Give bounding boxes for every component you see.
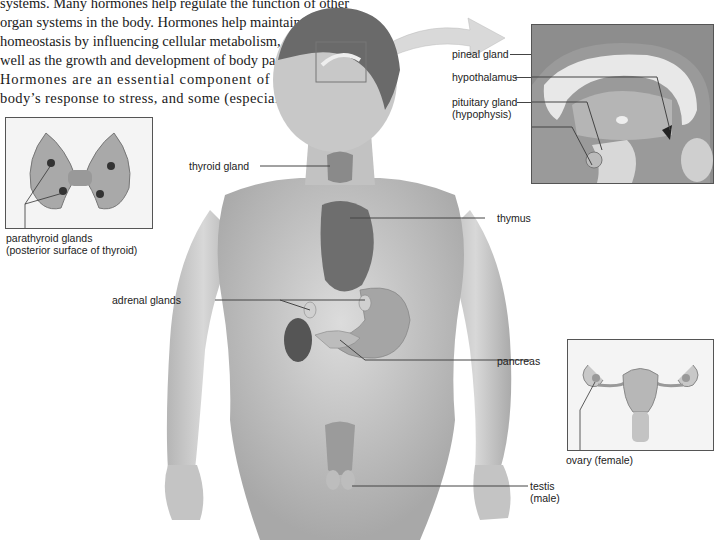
label-thyroid-gland: thyroid gland xyxy=(189,160,249,172)
label-hypothalamus: hypothalamus xyxy=(452,71,517,83)
leader-pineal xyxy=(510,54,531,55)
parathyroid-inset xyxy=(5,117,153,229)
label-ovary: ovary (female) xyxy=(566,454,633,466)
label-pituitary-note: (hypophysis) xyxy=(452,108,512,120)
label-pineal-gland: pineal gland xyxy=(452,48,509,60)
label-pituitary-gland: pituitary gland xyxy=(452,96,517,108)
thyroid-illustration xyxy=(6,118,152,228)
uterus-ovary-illustration xyxy=(568,340,713,450)
label-parathyroid-note: (posterior surface of thyroid) xyxy=(6,244,137,256)
leader-pituitary xyxy=(517,102,531,103)
label-adrenal-glands: adrenal glands xyxy=(112,294,181,306)
leader-hypothalamus xyxy=(515,77,531,78)
label-pancreas: pancreas xyxy=(497,355,540,367)
label-testis: testis xyxy=(530,480,555,492)
label-thymus: thymus xyxy=(497,212,531,224)
ovary-inset xyxy=(567,339,714,451)
brain-sagittal-illustration xyxy=(532,25,713,183)
label-testis-note: (male) xyxy=(530,492,560,504)
brain-inset xyxy=(531,24,714,184)
label-parathyroid-glands: parathyroid glands xyxy=(6,232,92,244)
